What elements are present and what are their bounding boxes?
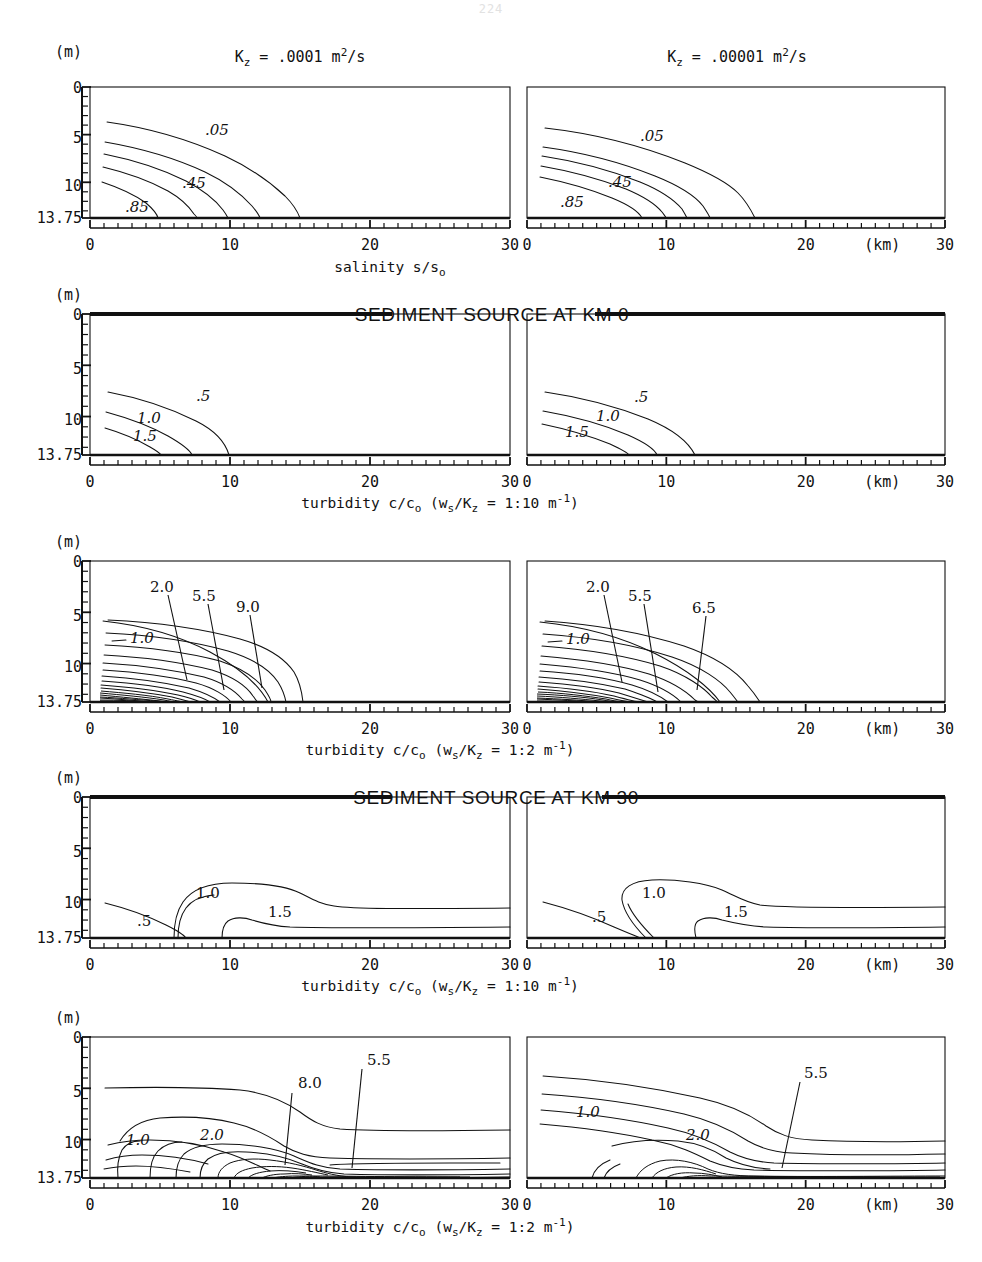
y-tick-0: 0 [73, 553, 82, 571]
y-tick-10: 10 [64, 658, 82, 676]
y-tick-10: 10 [64, 1134, 82, 1152]
y-tick-10: 10 [64, 177, 82, 195]
y-tick-0: 0 [73, 79, 82, 97]
panel-title-kz-1: Kz = .0001 m2/s [235, 46, 366, 69]
x-tick-label: 10 [221, 473, 239, 491]
figure-svg: Kz = .0001 m2/s Kz = .00001 m2/s .05 .45… [0, 0, 982, 1262]
x-tick-label: 0 [522, 956, 531, 974]
y-tick-1375: 13.75 [37, 209, 82, 227]
y-tick-1375: 13.75 [37, 446, 82, 464]
x-unit-label: (km) [864, 473, 900, 491]
contour-label-45: .45 [608, 173, 632, 191]
row-caption-turb-12-b: turbidity c/co (ws/Kz = 1:2 m-1) [306, 1216, 575, 1239]
contour-label-85: .85 [125, 198, 149, 216]
x-tick-label: 30 [501, 473, 519, 491]
x-tick-label: 10 [657, 473, 675, 491]
y-tick-0: 0 [73, 306, 82, 324]
contour-label-9p0: 9.0 [236, 598, 260, 616]
y-tick-5: 5 [73, 843, 82, 861]
x-tick-label: 0 [522, 473, 531, 491]
x-tick-label: 10 [657, 236, 675, 254]
contour-label-p5: .5 [196, 387, 210, 405]
contour-label-1p0: 1.0 [642, 884, 666, 902]
panel-row1-left: .05 .45 .85 [90, 87, 510, 218]
x-tick-label: 20 [361, 720, 379, 738]
x-tick-label: 0 [85, 956, 94, 974]
figure-contour-plots: Kz = .0001 m2/s Kz = .00001 m2/s .05 .45… [0, 0, 982, 1262]
contour-label-1p5: 1.5 [724, 903, 748, 921]
y-tick-0: 0 [73, 1029, 82, 1047]
x-tick-label: 30 [936, 720, 954, 738]
contour-label-5p5: 5.5 [367, 1051, 391, 1069]
contour-label-8p0: 8.0 [298, 1074, 322, 1092]
contour-label-2p0: 2.0 [586, 578, 610, 596]
x-tick-label: 30 [936, 1196, 954, 1214]
x-tick-label: 30 [936, 956, 954, 974]
x-tick-label: 0 [85, 236, 94, 254]
y-tick-5: 5 [73, 360, 82, 378]
contour-label-05: .05 [205, 121, 229, 139]
y-tick-0: 0 [73, 789, 82, 807]
x-tick-label: 20 [797, 236, 815, 254]
contour-label-85: .85 [560, 193, 584, 211]
x-tick-label: 20 [797, 1196, 815, 1214]
x-unit-label: (km) [864, 236, 900, 254]
y-unit-label: (m) [55, 286, 82, 304]
x-tick-label: 0 [85, 473, 94, 491]
x-tick-label: 20 [361, 473, 379, 491]
panel-row5-right: 1.0 2.0 5.5 [527, 1037, 945, 1178]
contour-label-1p0: 1.0 [596, 407, 620, 425]
contour-label-5p5: 5.5 [628, 587, 652, 605]
contour-label-1p0: 1.0 [137, 409, 161, 427]
y-tick-5: 5 [73, 129, 82, 147]
x-tick-label: 30 [501, 1196, 519, 1214]
contour-label-p5: .5 [592, 908, 606, 926]
x-tick-label: 20 [361, 956, 379, 974]
y-tick-10: 10 [64, 894, 82, 912]
x-tick-label: 10 [221, 1196, 239, 1214]
x-unit-label: (km) [864, 1196, 900, 1214]
panel-row4-right: .5 1.0 1.5 [527, 797, 945, 938]
x-tick-label: 10 [657, 956, 675, 974]
contour-label-6p5: 6.5 [692, 599, 716, 617]
row-caption-salinity: salinity s/so [334, 259, 445, 279]
contour-label-05: .05 [640, 127, 664, 145]
contour-label-1p5: 1.5 [133, 427, 157, 445]
x-tick-label: 0 [522, 1196, 531, 1214]
panel-row5-left: 1.0 2.0 8.0 5.5 [90, 1037, 510, 1178]
x-tick-label: 0 [85, 720, 94, 738]
row-caption-turb-12-a: turbidity c/co (ws/Kz = 1:2 m-1) [306, 739, 575, 762]
x-unit-label: (km) [864, 956, 900, 974]
x-tick-label: 30 [936, 473, 954, 491]
contour-set-row5-left [104, 1087, 510, 1178]
leaders-row5-right [782, 1082, 800, 1168]
x-tick-label: 30 [501, 720, 519, 738]
contour-label-2p0: 2.0 [199, 1126, 224, 1144]
x-tick-label: 20 [797, 720, 815, 738]
x-tick-label: 10 [657, 1196, 675, 1214]
y-tick-1375: 13.75 [37, 1169, 82, 1187]
x-tick-label: 10 [221, 720, 239, 738]
panel-row3-right: 1.0 2.0 5.5 6.5 [527, 561, 945, 702]
y-tick-1375: 13.75 [37, 693, 82, 711]
y-labels-row3: (m) 0 5 10 13.75 [37, 533, 82, 711]
contour-label-1p0: 1.0 [566, 630, 590, 648]
contour-label-2p0: 2.0 [150, 578, 174, 596]
x-tick-label: 0 [522, 236, 531, 254]
contour-label-5p5: 5.5 [192, 587, 216, 605]
contour-label-p5: .5 [137, 912, 151, 930]
y-unit-label: (m) [55, 533, 82, 551]
panel-row4-left: .5 1.0 1.5 [90, 797, 510, 938]
x-tick-label: 0 [85, 1196, 94, 1214]
y-tick-5: 5 [73, 1083, 82, 1101]
row-caption-turb-110-b: turbidity c/co (ws/Kz = 1:10 m-1) [301, 975, 579, 998]
y-labels-row1: (m) 0 5 10 13.75 [37, 43, 82, 227]
panel-title-kz-2: Kz = .00001 m2/s [667, 46, 807, 69]
contour-label-1p5: 1.5 [565, 423, 589, 441]
x-tick-label: 30 [501, 956, 519, 974]
x-tick-label: 20 [797, 473, 815, 491]
panel-row1-right: .05 .45 .85 [527, 87, 945, 218]
panel-row3-left: 1.0 2.0 5.5 9.0 [90, 561, 510, 702]
contour-label-1p0: 1.0 [130, 629, 154, 647]
x-tick-label: 20 [797, 956, 815, 974]
